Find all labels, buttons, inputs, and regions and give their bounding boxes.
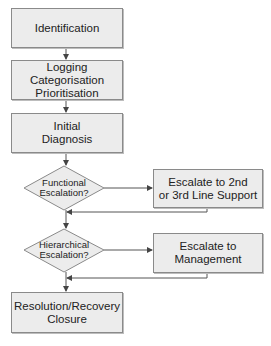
node-identification: Identification bbox=[11, 8, 123, 48]
node-logging: Logging Categorisation Prioritisation bbox=[11, 60, 123, 100]
node-initial-diagnosis: Initial Diagnosis bbox=[11, 113, 123, 153]
node-escalate-line-support: Escalate to 2nd or 3rd Line Support bbox=[153, 169, 263, 208]
arrow-management-return bbox=[67, 273, 207, 278]
node-escalate-management: Escalate to Management bbox=[153, 233, 263, 273]
arrow-escalate-return bbox=[67, 208, 207, 212]
node-hierarchical-escalation: Hierarchical Escalation? bbox=[24, 234, 104, 266]
node-resolution: Resolution/Recovery Closure bbox=[11, 292, 123, 333]
node-functional-escalation: Functional Escalation? bbox=[24, 172, 104, 204]
